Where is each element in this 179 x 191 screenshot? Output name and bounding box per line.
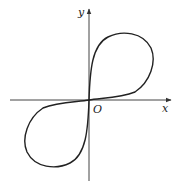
curve-lobe-quadrant-3: [25, 100, 89, 167]
x-axis-label: x: [162, 102, 169, 115]
y-axis-label: y: [77, 6, 85, 19]
curve-lobe-quadrant-1: [89, 33, 153, 100]
origin-label: O: [93, 103, 102, 116]
figure-diagram: y x O: [0, 0, 179, 191]
